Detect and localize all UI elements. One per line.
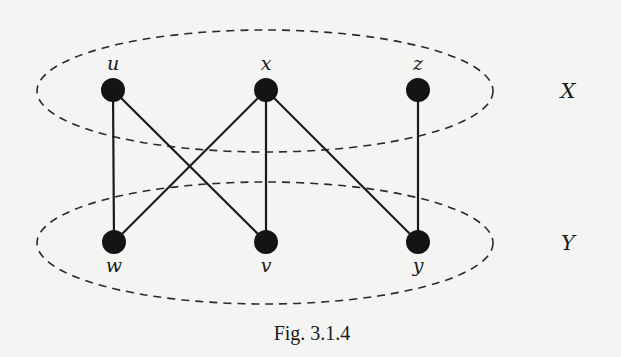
vertex-label-v: v (261, 254, 272, 276)
vertex-z (406, 78, 430, 102)
vertex-x (254, 78, 278, 102)
vertex-label-z: z (412, 52, 424, 74)
bipartite-graph-figure: u x z w v y X Y Fig. 3.1.4 (0, 0, 621, 357)
edge-x-y (266, 90, 418, 242)
figure-caption: Fig. 3.1.4 (274, 322, 351, 345)
vertex-label-y: y (412, 254, 424, 276)
partition-label-y: Y (561, 231, 577, 255)
vertex-y (406, 230, 430, 254)
vertex-label-w: w (106, 254, 122, 276)
vertex-w (102, 230, 126, 254)
vertex-label-x: x (261, 52, 272, 74)
edge-u-w (113, 90, 114, 242)
partition-label-x: X (559, 79, 577, 103)
vertex-label-u: u (107, 52, 119, 74)
vertex-v (254, 230, 278, 254)
vertex-u (101, 78, 125, 102)
